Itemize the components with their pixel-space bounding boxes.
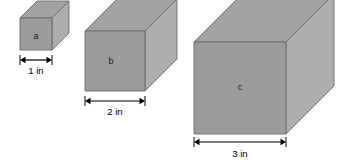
box-b-dimension-label: 2 in [107,106,122,117]
three-boxes-diagram: abc 1 in2 in3 in [0,0,356,167]
box-b-letter-label: b [108,56,113,66]
box-b-dimension: 2 in [85,96,145,117]
box-b-dim-arrow-left [85,98,91,104]
box-c-dimension-label: 3 in [232,148,247,159]
box-a-dimension: 1 in [20,55,52,76]
box-c-dim-arrow-right [281,139,287,145]
box-c-dimension: 3 in [194,137,286,159]
box-a-dimension-label: 1 in [28,65,43,76]
box-b-dim-arrow-right [140,98,146,104]
box-b: b [85,0,177,91]
box-c-letter-label: c [238,82,243,92]
box-a-dim-arrow-left [20,57,26,63]
box-c-dim-arrow-left [194,139,200,145]
boxes-layer: abc [20,0,334,134]
box-a-letter-label: a [33,31,38,41]
box-a-dim-arrow-right [47,57,53,63]
box-c: c [194,0,334,134]
box-b-front-face [85,31,145,91]
box-a: a [20,1,69,50]
figure-canvas: abc 1 in2 in3 in [0,0,356,167]
